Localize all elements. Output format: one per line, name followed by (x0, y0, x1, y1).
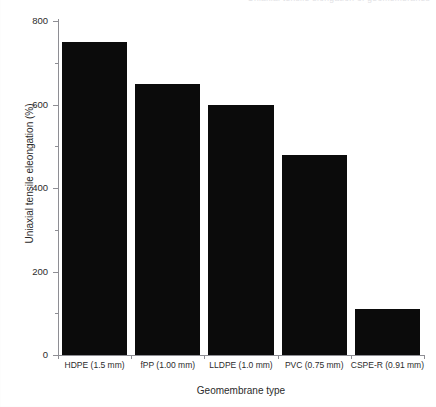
bar-series (58, 21, 424, 355)
bar (282, 155, 347, 355)
bar-chart-figure: Uniaxial tensile eleongation (%) 0200400… (0, 0, 436, 407)
x-axis-tick-mark (424, 355, 425, 359)
x-axis-tick-mark (204, 355, 205, 359)
x-axis-line (57, 355, 425, 356)
y-axis-tick-label: 0 (43, 349, 48, 360)
x-axis-tick-label: CSPE-R (0.91 mm) (351, 360, 424, 370)
bar (208, 105, 273, 356)
x-axis-tick-label: HDPE (1.5 mm) (58, 360, 131, 370)
bar (135, 84, 200, 355)
y-axis-tick-label: 600 (32, 99, 48, 110)
bar-slot (278, 21, 351, 355)
x-axis-tick-mark (278, 355, 279, 359)
x-axis-tick-mark (131, 355, 132, 359)
x-axis-title: Geomembrane type (58, 385, 424, 396)
x-axis-tick-label: LLDPE (1.0 mm) (204, 360, 277, 370)
y-axis-tick-label: 800 (32, 15, 48, 26)
x-axis-tick-label: fPP (1.00 mm) (131, 360, 204, 370)
bar-slot (58, 21, 131, 355)
bar-slot (351, 21, 424, 355)
x-axis-tick-label: PVC (0.75 mm) (278, 360, 351, 370)
x-axis-tick-mark (351, 355, 352, 359)
x-axis-tick-mark (58, 355, 59, 359)
bar-slot (204, 21, 277, 355)
y-axis-tick-label: 200 (32, 266, 48, 277)
y-axis-tick-label: 400 (32, 182, 48, 193)
bar (62, 42, 127, 355)
bar-slot (131, 21, 204, 355)
bar (355, 309, 420, 355)
